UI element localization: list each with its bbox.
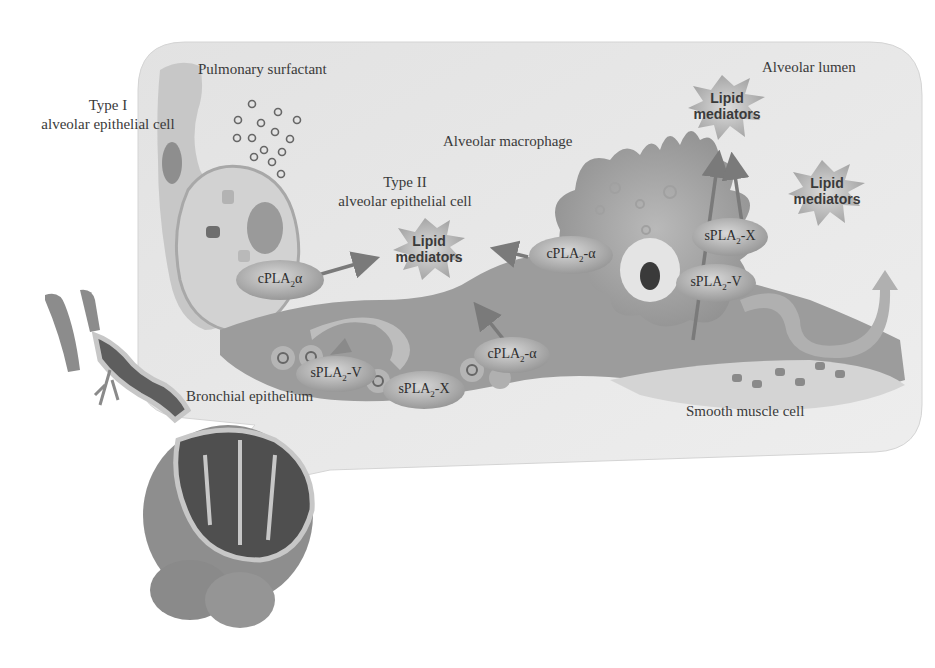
- enzyme-macrophage-spla2x: sPLA2-X: [692, 228, 768, 246]
- enzyme-bronchial-cpla2: cPLA2-α: [474, 346, 550, 364]
- label-type1-line1: Type I: [28, 96, 188, 115]
- enzyme-bronchial-spla2v: sPLA2-V: [296, 365, 376, 383]
- lipid-mediators-top-right: Lipidmediators: [683, 70, 771, 140]
- enzyme-macrophage-spla2v: sPLA2-V: [676, 274, 756, 292]
- enzyme-bronchial-spla2x: sPLA2-X: [384, 381, 464, 399]
- figure-canvas: Pulmonary surfactant Type I alveolar epi…: [0, 0, 935, 668]
- lipid-mediators-center: Lipidmediators: [385, 213, 473, 283]
- label-type1-line2: alveolar epithelial cell: [28, 115, 188, 134]
- label-type2-line2: alveolar epithelial cell: [320, 192, 490, 211]
- lm-line1: Lipid: [412, 233, 445, 249]
- lm-line2: mediators: [396, 249, 463, 265]
- enzyme-macrophage-cpla2: cPLA2-α: [531, 246, 611, 264]
- type2-cell: [176, 166, 298, 330]
- label-alveolar-macrophage: Alveolar macrophage: [443, 132, 573, 151]
- label-type2-cell: Type II alveolar epithelial cell: [320, 173, 490, 211]
- label-pulmonary-surfactant: Pulmonary surfactant: [198, 60, 327, 79]
- label-type2-line1: Type II: [320, 173, 490, 192]
- lm-line1: Lipid: [810, 175, 843, 191]
- label-bronchial-epithelium: Bronchial epithelium: [186, 387, 313, 406]
- label-smooth-muscle-cell: Smooth muscle cell: [686, 402, 804, 421]
- lm-line2: mediators: [694, 106, 761, 122]
- label-type1-cell: Type I alveolar epithelial cell: [28, 96, 188, 134]
- lipid-mediators-far-right: Lipidmediators: [783, 155, 871, 225]
- lm-line1: Lipid: [710, 90, 743, 106]
- lm-line2: mediators: [794, 191, 861, 207]
- label-alveolar-lumen: Alveolar lumen: [762, 58, 856, 77]
- enzyme-type2-cpla2: cPLA2α: [240, 271, 320, 289]
